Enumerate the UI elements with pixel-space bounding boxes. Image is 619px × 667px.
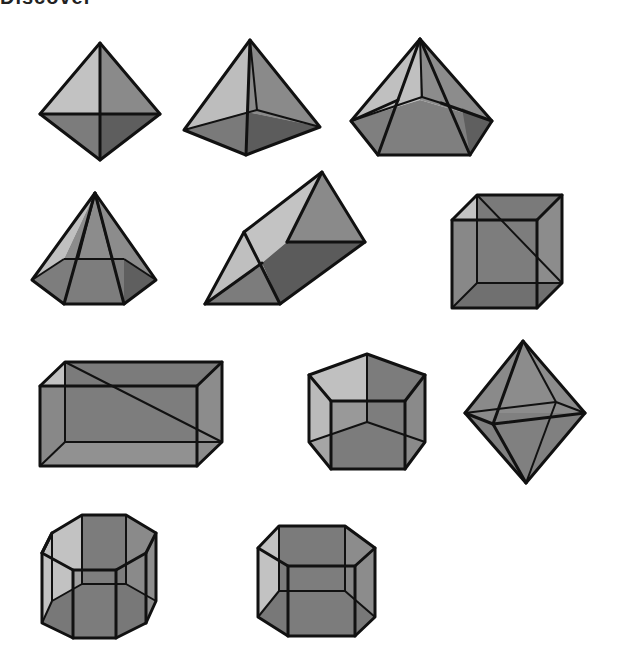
hexagonal-pyramid bbox=[32, 193, 156, 304]
octagonal-prism bbox=[42, 515, 156, 638]
square-bipyramid bbox=[40, 43, 160, 160]
cube bbox=[452, 195, 562, 308]
square-pyramid bbox=[184, 40, 320, 155]
triangular-prism bbox=[205, 172, 365, 304]
pentagonal-prism bbox=[309, 354, 425, 469]
rectangular-prism bbox=[40, 362, 222, 466]
hexagonal-prism bbox=[258, 526, 375, 636]
pentagonal-pyramid bbox=[351, 39, 492, 155]
solids-figure bbox=[0, 0, 619, 667]
octahedron bbox=[465, 341, 585, 483]
